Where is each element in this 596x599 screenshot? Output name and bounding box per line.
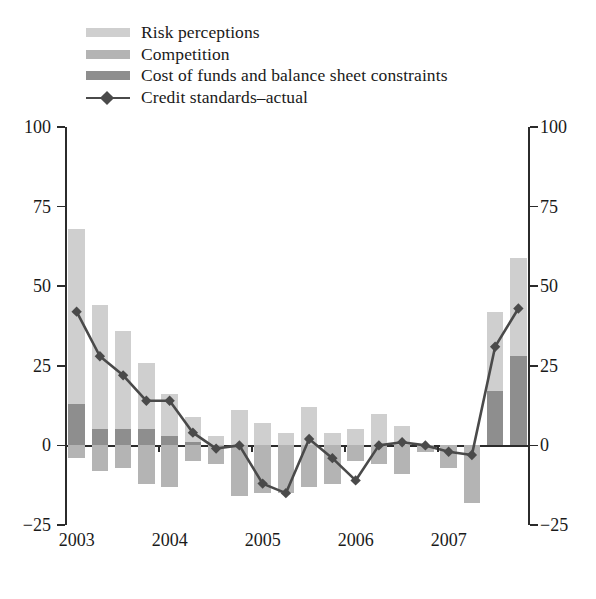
y-axis-label-right: 0	[540, 436, 596, 454]
legend-label-cost-of-funds: Cost of funds and balance sheet constrai…	[141, 65, 448, 87]
line-marker-diamond	[71, 306, 81, 316]
line-marker-diamond	[467, 450, 477, 460]
y-axis-label-right: 50	[540, 277, 596, 295]
y-tick	[57, 285, 65, 287]
y-axis-label-left: 0	[0, 436, 51, 454]
line-marker-diamond	[420, 440, 430, 450]
legend-label-credit-standards: Credit standards–actual	[141, 87, 308, 109]
legend-label-competition: Competition	[141, 44, 230, 66]
legend-item-risk-perceptions: Risk perceptions	[86, 22, 506, 44]
y-axis-label-left: 100	[0, 118, 51, 136]
chart-figure: Risk perceptions Competition Cost of fun…	[0, 0, 596, 599]
x-tick	[158, 445, 160, 452]
x-tick	[437, 445, 439, 452]
y-tick	[530, 126, 538, 128]
legend-swatch-competition	[86, 50, 130, 59]
plot-area: −25−2500252550507575100100 2003200420052…	[65, 127, 530, 525]
y-tick	[530, 285, 538, 287]
y-tick	[57, 206, 65, 208]
x-axis-label: 2006	[321, 531, 391, 549]
legend-swatch-cost-of-funds	[86, 71, 130, 80]
y-tick	[530, 445, 538, 447]
y-axis-label-right: 100	[540, 118, 596, 136]
legend-item-cost-of-funds: Cost of funds and balance sheet constrai…	[86, 65, 506, 87]
x-axis-label: 2005	[228, 531, 298, 549]
legend-item-credit-standards: Credit standards–actual	[86, 87, 506, 109]
legend-swatch-risk-perceptions	[86, 28, 130, 37]
y-tick	[57, 445, 65, 447]
x-tick	[344, 445, 346, 452]
y-axis-label-left: 50	[0, 277, 51, 295]
y-axis-label-left: 75	[0, 198, 51, 216]
line-marker-diamond	[443, 447, 453, 457]
y-tick	[530, 365, 538, 367]
line-marker-diamond	[281, 488, 291, 498]
chart-legend: Risk perceptions Competition Cost of fun…	[86, 22, 506, 108]
y-axis-label-right: 25	[540, 357, 596, 375]
y-tick	[57, 126, 65, 128]
legend-line-marker-credit-standards	[86, 92, 130, 103]
y-axis-label-left: 25	[0, 357, 51, 375]
y-axis-label-right: 75	[540, 198, 596, 216]
legend-label-risk-perceptions: Risk perceptions	[141, 22, 260, 44]
y-tick	[57, 524, 65, 526]
line-series-credit-standards	[65, 127, 530, 525]
x-axis-label: 2007	[414, 531, 484, 549]
x-axis-label: 2004	[135, 531, 205, 549]
legend-item-competition: Competition	[86, 44, 506, 66]
y-tick	[530, 206, 538, 208]
y-tick	[530, 524, 538, 526]
y-axis-label-right: −25	[540, 516, 596, 534]
x-axis-label: 2003	[42, 531, 112, 549]
x-tick	[251, 445, 253, 452]
y-tick	[57, 365, 65, 367]
line-marker-diamond	[397, 437, 407, 447]
